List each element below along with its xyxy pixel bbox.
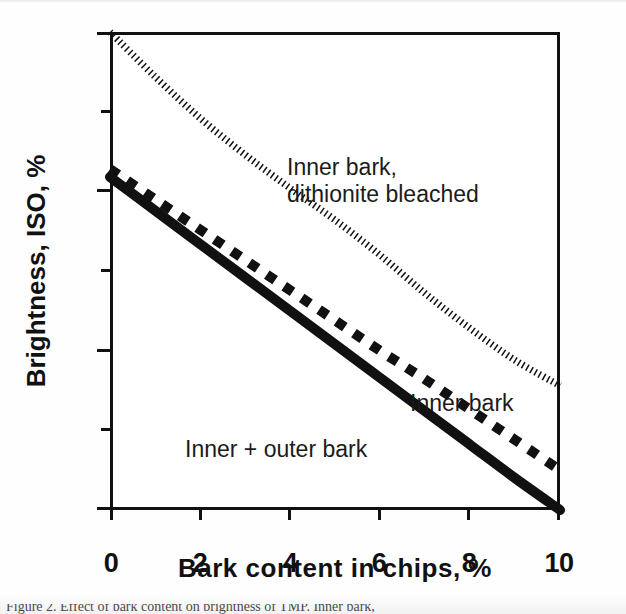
ytick-major-60: [97, 189, 110, 192]
x-axis-title: Bark content in chips, %: [110, 553, 560, 584]
series-label-inner-bark: Inner bark: [410, 390, 514, 417]
ytick-minor-55: [101, 269, 110, 272]
series-path-0: [110, 32, 560, 386]
series-label-inner-bark-dithionite-bleached: Inner bark, dithionite bleached: [287, 154, 479, 208]
figure-page: 70 60 50 40 0 2 4 6 8 10 Inner bark, dit…: [0, 0, 626, 614]
y-axis-title-wrapper: Brightness, ISO, %: [38, 510, 516, 544]
ytick-minor-45: [101, 428, 110, 431]
y-axis-title: Brightness, ISO, %: [16, 32, 56, 510]
xtick-major-10: [557, 507, 560, 520]
series-path-1: [110, 169, 560, 470]
figure-caption-text: Figure 2. Effect of bark content on brig…: [0, 604, 626, 614]
scan-edge-top: [0, 0, 626, 3]
series-label-inner-plus-outer-bark: Inner + outer bark: [185, 436, 367, 463]
plot-area: 70 60 50 40 0 2 4 6 8 10 Inner bark, dit…: [110, 32, 560, 510]
ytick-minor-65: [101, 110, 110, 113]
ytick-major-70: [97, 32, 110, 35]
ytick-major-50: [97, 349, 110, 352]
figure-caption-fragment: Figure 2. Effect of bark content on brig…: [0, 604, 626, 614]
